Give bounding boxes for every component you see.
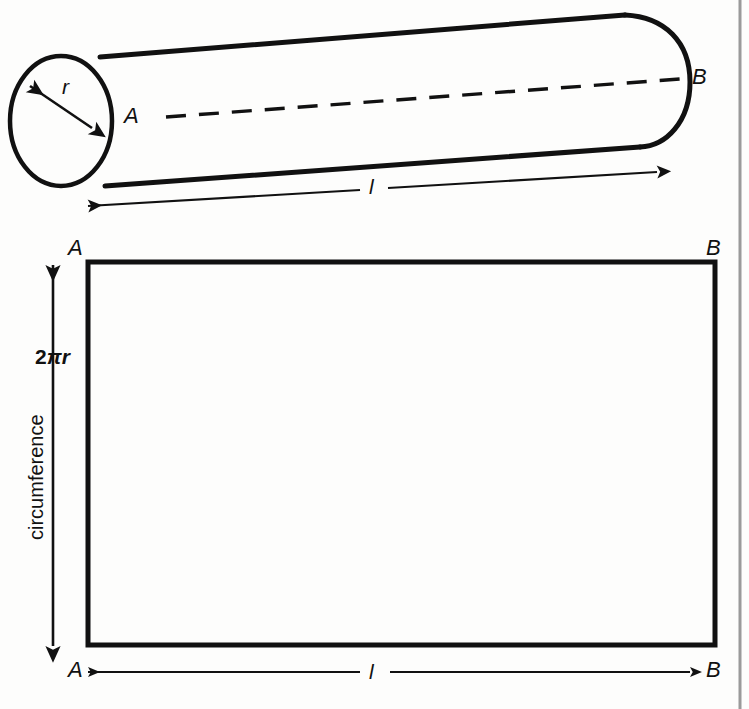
net-circumference-caption: circumference <box>26 414 46 540</box>
net-height-formula-prefix: 2 <box>35 345 47 368</box>
net-height-formula-radius: r <box>62 345 70 368</box>
cylinder-length-arrow-right <box>388 172 657 188</box>
figure-drawing <box>0 0 749 709</box>
cylinder-length-label: l <box>369 176 374 197</box>
net-corner-a-top-label: A <box>68 237 83 259</box>
net-corner-b-bottom-label: B <box>706 659 721 681</box>
cylinder-near-circle <box>10 56 112 186</box>
net-corner-a-bottom-label: A <box>68 659 83 681</box>
net-width-label: l <box>369 661 374 682</box>
radius-label: r <box>62 76 69 97</box>
cylinder-top-edge <box>100 15 625 57</box>
cylinder-axis-dashed <box>166 79 680 117</box>
cylinder-length-arrow-left <box>88 190 360 206</box>
figure-canvas: r A B l A B A B 2πr circumference l <box>0 0 749 709</box>
radius-arrow <box>30 86 92 128</box>
cylinder-point-a-label: A <box>124 105 139 127</box>
net-height-formula-pi: π <box>47 345 62 368</box>
cylinder-point-b-label: B <box>692 66 707 88</box>
net-corner-b-top-label: B <box>706 237 721 259</box>
net-height-formula: 2πr <box>35 346 70 367</box>
net-rectangle <box>88 262 715 645</box>
